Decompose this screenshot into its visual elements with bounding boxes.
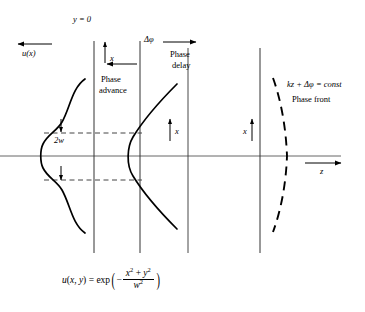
equation-numerator: x2 + y2	[123, 268, 154, 279]
gaussian-beam-figure: y = 0 u(x) x Phase advance Δφ Phase dela…	[0, 0, 365, 312]
phase-front-caption: Phase front	[292, 94, 330, 104]
amplitude-label: u(x)	[22, 48, 36, 58]
phase-front-condition-label: kz + Δφ = const	[287, 79, 342, 89]
gaussian-equation: u(x, y) = exp ( − x2 + y2 w2 )	[62, 268, 161, 291]
phase-front-dashed-curve	[273, 78, 287, 232]
delta-phi-label: Δφ	[144, 34, 154, 44]
equation-minus: −	[116, 275, 121, 285]
equation-fraction: x2 + y2 w2	[123, 268, 154, 291]
transverse-label-3: x	[243, 126, 247, 136]
equation-denominator: w2	[123, 279, 154, 291]
phase-delay-label-line1: Phase	[170, 49, 190, 59]
equation-lhs: u(x, y) = exp	[62, 275, 110, 285]
plane-label-y-equals-zero: y = 0	[73, 14, 91, 24]
vertical-plane-lines	[94, 41, 260, 253]
beam-width-label: 2w	[54, 135, 64, 145]
phase-advance-label-line1: Phase	[101, 74, 121, 84]
transverse-label-2: x	[175, 126, 179, 136]
transverse-label-1: x	[110, 53, 114, 63]
equation-close-paren: )	[156, 273, 159, 286]
figure-canvas	[0, 0, 365, 312]
z-axis-label: z	[320, 166, 323, 176]
phase-delay-label-line2: delay	[172, 60, 190, 70]
phase-advance-label-line2: advance	[99, 85, 127, 95]
equation-open-paren: (	[112, 273, 115, 286]
